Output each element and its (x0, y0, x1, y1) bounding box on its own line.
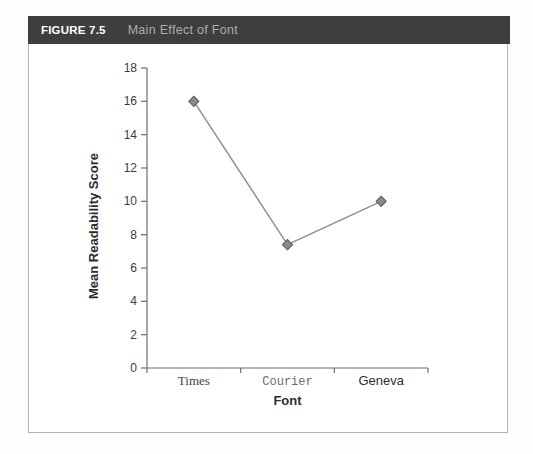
y-tick-label: 16 (124, 94, 138, 108)
x-category-label-geneva: Geneva (358, 373, 404, 388)
data-point-courier (282, 240, 292, 250)
y-tick-label: 6 (130, 261, 137, 275)
figure-title: Main Effect of Font (128, 23, 238, 37)
x-category-label-courier: Courier (262, 375, 312, 389)
data-line (194, 101, 381, 244)
x-axis-title: Font (273, 393, 302, 408)
figure-header: FIGURE 7.5 Main Effect of Font (28, 16, 510, 44)
y-tick-label: 0 (130, 361, 137, 375)
figure-frame: FIGURE 7.5 Main Effect of Font 024681012… (28, 16, 508, 433)
data-point-times (189, 96, 199, 106)
x-category-label-times: Times (178, 373, 210, 388)
y-axis-title: Mean Readability Score (86, 153, 101, 299)
y-tick-label: 18 (124, 61, 138, 75)
y-tick-label: 8 (130, 228, 137, 242)
page: { "figure": { "label": "FIGURE 7.5", "ti… (0, 0, 533, 454)
y-tick-label: 4 (130, 294, 137, 308)
data-point-geneva (376, 196, 386, 206)
y-tick-label: 2 (130, 328, 137, 342)
y-tick-label: 12 (124, 161, 138, 175)
chart-svg: 024681012141618TimesCourierGenevaFontMea… (29, 45, 507, 433)
figure-label: FIGURE 7.5 (41, 24, 106, 36)
y-tick-label: 14 (124, 128, 138, 142)
figure-body: 024681012141618TimesCourierGenevaFontMea… (29, 45, 507, 433)
y-tick-label: 10 (124, 194, 138, 208)
